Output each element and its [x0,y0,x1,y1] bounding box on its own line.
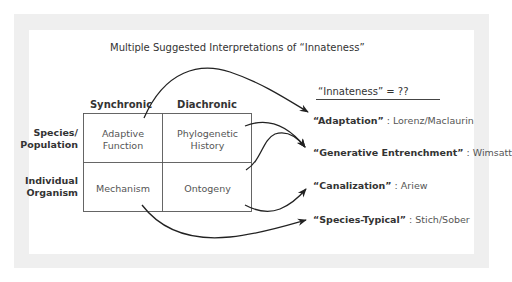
arrow-ontogeny-to-canalization [245,189,306,211]
matrix-grid [84,114,252,212]
arrow-adaptive-to-adaptation [144,68,308,118]
arrow-mechanism-to-species-typical [142,205,306,238]
interpretation-arrows [142,68,308,238]
arrow-ontogeny-to-entrenchment [246,133,305,170]
